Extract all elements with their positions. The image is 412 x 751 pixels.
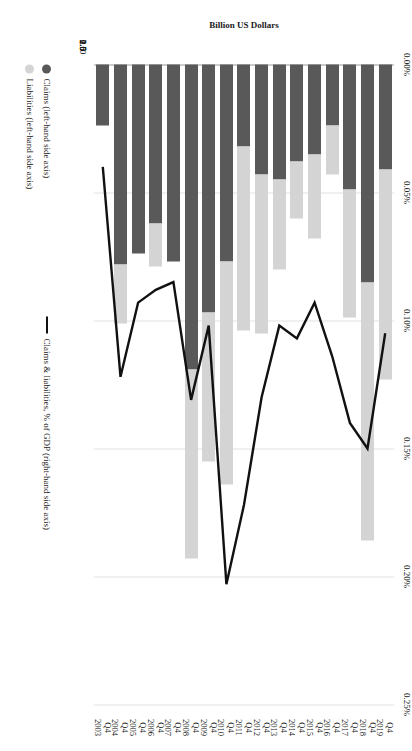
category-year: 2019 <box>375 706 385 748</box>
right-axis-tick: 0.00% <box>402 52 412 75</box>
legend-item-liabilities: Liabilities (left-hand side axis) <box>25 64 35 189</box>
category-year: 2013 <box>269 706 279 748</box>
category-year: 2016 <box>322 706 332 748</box>
category-year: 2006 <box>146 706 156 748</box>
left-axis-tick: 2.5 <box>78 39 88 50</box>
category-year: 2003 <box>93 706 103 748</box>
category-year: 2015 <box>305 706 315 748</box>
category-year: 2009 <box>199 706 209 748</box>
left-value-axis: 00.51.01.52.02.5 Billion US Dollars <box>94 0 394 62</box>
chart-legend: Claims (left-hand side axis) Liabilities… <box>6 64 52 724</box>
percent-of-gdp-line <box>103 166 385 583</box>
left-axis-title: Billion US Dollars <box>164 19 324 29</box>
category-year: 2012 <box>252 706 262 748</box>
legend-label-claims: Claims (left-hand side axis) <box>42 78 52 178</box>
category-year: 2008 <box>181 706 191 748</box>
legend-item-line: Claims & liabilities, % of GDP (right-ha… <box>42 316 52 529</box>
category-year: 2018 <box>358 706 368 748</box>
liabilities-swatch-icon <box>26 64 35 73</box>
right-axis-tick: 0.15% <box>402 436 412 459</box>
right-axis-tick: 0.20% <box>402 564 412 587</box>
category-year: 2010 <box>216 706 226 748</box>
right-axis-tick: 0.05% <box>402 180 412 203</box>
category-year: 2014 <box>287 706 297 748</box>
legend-label-liabilities: Liabilities (left-hand side axis) <box>25 78 35 189</box>
line-swatch-icon <box>46 316 48 333</box>
category-year: 2017 <box>340 706 350 748</box>
category-year: 2004 <box>110 706 120 748</box>
right-axis-tick: 0.25% <box>402 692 412 715</box>
plot-area <box>94 64 394 704</box>
category-year: 2005 <box>128 706 138 748</box>
legend-label-line: Claims & liabilities, % of GDP (right-ha… <box>42 338 52 529</box>
category-quarter: Q4 <box>385 706 395 748</box>
category-label: Q42019 <box>375 706 395 748</box>
category-year: 2011 <box>234 706 244 748</box>
legend-item-claims: Claims (left-hand side axis) <box>42 64 52 178</box>
right-axis-tick: 0.10% <box>402 308 412 331</box>
category-year: 2007 <box>163 706 173 748</box>
claims-swatch-icon <box>43 64 52 73</box>
line-series-overlay <box>94 64 394 704</box>
category-axis-labels: Q42003Q42004Q42005Q42006Q42007Q42008Q420… <box>94 704 394 750</box>
